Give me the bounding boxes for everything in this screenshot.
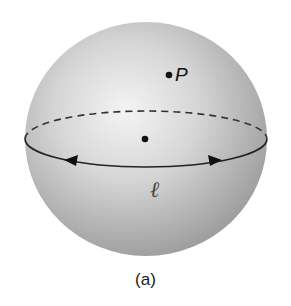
point-p-label: P: [175, 64, 188, 86]
sphere-diagram: [0, 0, 291, 306]
point-p-dot: [166, 72, 173, 79]
figure-caption: (a): [0, 270, 291, 290]
line-l-label: ℓ: [150, 177, 159, 203]
center-point-dot: [142, 136, 149, 143]
